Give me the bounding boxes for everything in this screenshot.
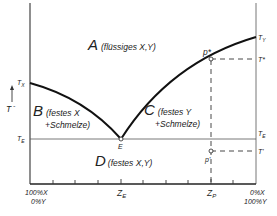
x-right-label-line2: 100%Y [244,198,268,205]
x-ticks [53,179,233,184]
ze-label: ZE [116,188,127,199]
point-pstar-marker [209,57,213,61]
te-left-label: TE [17,135,25,144]
x-left-label-line2: 0%Y [31,198,47,205]
region-b-label-line2: +Schmelze) [45,120,90,130]
tx-label: TX [17,79,25,88]
x-right-label-line1: 0%X [250,189,265,196]
region-c-label: C(festes Y [144,101,193,118]
tstar-label: T* [258,56,265,63]
arrow-up-icon [10,85,14,90]
x-left-label-line1: 100%X [25,189,48,196]
region-a-label: A(flüssiges X,Y) [87,36,156,53]
tprime-label: T' [258,148,264,155]
phase-diagram: T - TX TE TY T* TE T' E p* p' A(flüssige… [0,0,277,216]
te-right-label: TE [258,130,266,139]
region-c-label-line2: +Schmelze) [155,119,200,129]
region-b-label: B(festes X [33,102,80,119]
point-pprime-marker [209,149,213,153]
zp-label: ZP [206,188,216,199]
region-d-label: D(festes X,Y) [95,152,152,169]
point-pprime-label: p' [204,156,211,164]
svg-text:-: - [13,102,16,109]
y-axis-label: T [6,104,12,114]
ty-label: TY [258,34,266,43]
point-pstar-label: p* [202,47,212,57]
point-e-marker [119,137,123,141]
point-e-label: E [118,143,123,150]
